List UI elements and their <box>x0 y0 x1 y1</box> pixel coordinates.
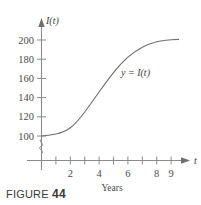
y-tick-label-160: 160 <box>18 73 34 84</box>
y-tick-label-180: 180 <box>18 54 34 65</box>
x-tick-label-2: 2 <box>68 168 73 179</box>
figure-caption: FIGURE 44 <box>6 187 66 201</box>
figure-caption-word: FIGURE <box>6 188 49 200</box>
x-tick-label-4: 4 <box>96 168 102 179</box>
logistic-growth-plot: 200 180 160 140 120 100 2 4 6 8 9 I(t) t… <box>0 0 201 205</box>
logistic-curve <box>42 39 179 136</box>
figure-container: 200 180 160 140 120 100 2 4 6 8 9 I(t) t… <box>0 0 201 205</box>
x-axis-caption: Years <box>101 183 123 193</box>
x-tick-label-8: 8 <box>154 168 159 179</box>
x-axis-label: t <box>194 155 197 166</box>
x-tick-label-9: 9 <box>168 168 173 179</box>
y-tick-label-140: 140 <box>18 92 34 103</box>
y-axis-label: I(t) <box>45 15 59 27</box>
figure-caption-number: 44 <box>52 187 66 201</box>
y-tick-label-100: 100 <box>18 131 34 142</box>
y-tick-label-200: 200 <box>18 35 34 46</box>
x-tick-label-6: 6 <box>125 168 130 179</box>
curve-equation-label: y = I(t) <box>120 67 151 79</box>
y-axis-arrow-icon <box>38 18 44 27</box>
x-axis-arrow-icon <box>181 157 190 163</box>
y-tick-label-120: 120 <box>18 111 34 122</box>
